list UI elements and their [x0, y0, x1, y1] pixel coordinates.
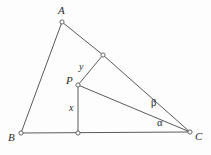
side-bc	[21, 132, 190, 133]
vertex-marker-d	[76, 131, 80, 135]
vertex-label-p: P	[66, 75, 73, 86]
vertex-marker-a	[60, 20, 64, 24]
segment-pc	[78, 85, 190, 132]
vertex-label-c: C	[195, 131, 202, 142]
segment-layer	[21, 22, 190, 133]
diagram-canvas	[0, 0, 211, 155]
side-aq	[62, 22, 103, 55]
vertex-label-b: B	[8, 132, 15, 143]
vertex-label-a: A	[58, 5, 65, 16]
length-label-y: y	[79, 62, 83, 72]
side-ab	[21, 22, 62, 133]
vertex-layer	[19, 20, 192, 135]
vertex-marker-p	[76, 83, 80, 87]
angle-label-beta: β	[151, 98, 156, 109]
vertex-marker-c	[188, 130, 192, 134]
angle-label-alpha: α	[157, 118, 163, 129]
geometry-figure: A B C P x y β α	[0, 0, 211, 155]
vertex-marker-q	[101, 53, 105, 57]
vertex-marker-b	[19, 131, 23, 135]
length-label-x: x	[69, 103, 73, 113]
side-qc	[103, 55, 190, 132]
